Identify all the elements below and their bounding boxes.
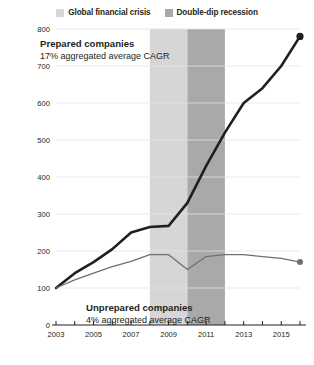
y-axis-label-700: 700 [26, 62, 50, 71]
x-axis-label-2013: 2013 [229, 330, 259, 339]
annotation-unprepared-companies: Unprepared companies 4% aggregated avera… [86, 302, 211, 326]
y-axis-label-500: 500 [26, 136, 50, 145]
annotation-prepared-title: Prepared companies [40, 38, 170, 50]
x-axis-label-2009: 2009 [154, 330, 184, 339]
x-axis-label-2005: 2005 [79, 330, 109, 339]
annotation-prepared-companies: Prepared companies 17% aggregated averag… [40, 38, 170, 62]
series-endpoint-marker-unprepared-companies [297, 259, 303, 265]
x-axis-label-2007: 2007 [116, 330, 146, 339]
y-axis-label-100: 100 [26, 284, 50, 293]
chart-container: Global financial crisis Double-dip reces… [0, 0, 314, 365]
x-axis-label-2003: 2003 [41, 330, 71, 339]
series-endpoint-marker-prepared-companies [296, 33, 303, 40]
y-axis-label-200: 200 [26, 247, 50, 256]
y-axis-label-400: 400 [26, 173, 50, 182]
x-axis-label-2015: 2015 [266, 330, 296, 339]
y-axis-label-800: 800 [26, 25, 50, 34]
y-axis-label-300: 300 [26, 210, 50, 219]
y-axis-label-600: 600 [26, 99, 50, 108]
annotation-unprepared-title: Unprepared companies [86, 302, 211, 314]
x-axis-label-2011: 2011 [191, 330, 221, 339]
y-axis-label-0: 0 [26, 321, 50, 330]
annotation-unprepared-subtitle: 4% aggregated average CAGR [86, 314, 211, 326]
annotation-prepared-subtitle: 17% aggregated average CAGR [40, 50, 170, 62]
